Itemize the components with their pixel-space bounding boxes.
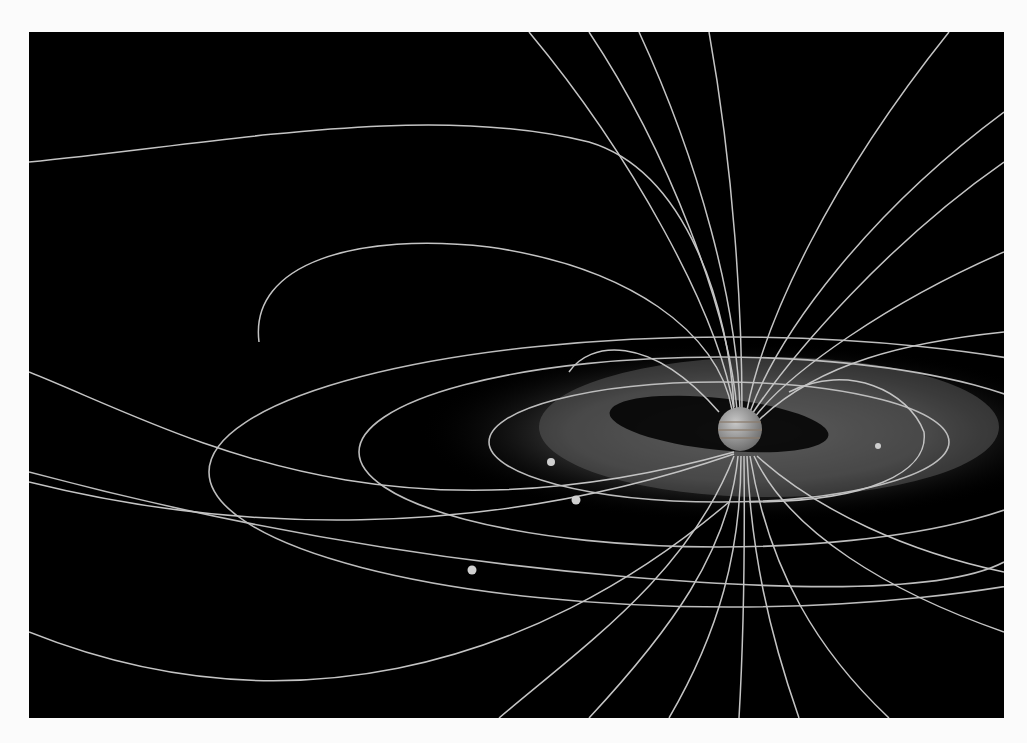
illustration-panel: [29, 32, 1004, 718]
moon-3: [468, 566, 477, 575]
plasma-torus: [419, 342, 1004, 522]
moon-4: [875, 443, 881, 449]
moon-2: [572, 496, 581, 505]
jupiter-planet: [718, 407, 762, 451]
magnetosphere-illustration: [29, 32, 1004, 718]
moon-1: [547, 458, 555, 466]
